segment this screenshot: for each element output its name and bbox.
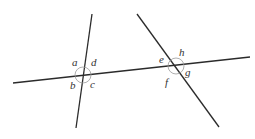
angle-label-f: f <box>165 76 170 88</box>
angle-label-e: e <box>159 53 164 65</box>
angle-label-d: d <box>91 56 97 68</box>
angle-label-a: a <box>72 56 78 68</box>
line-2 <box>137 14 219 127</box>
angle-label-h: h <box>179 46 185 58</box>
angle-label-b: b <box>70 79 76 91</box>
angle-diagram: a d b c e h g f <box>0 0 255 139</box>
angle-label-c: c <box>90 78 95 90</box>
angle-label-g: g <box>185 66 191 78</box>
transversal-line <box>13 57 250 83</box>
